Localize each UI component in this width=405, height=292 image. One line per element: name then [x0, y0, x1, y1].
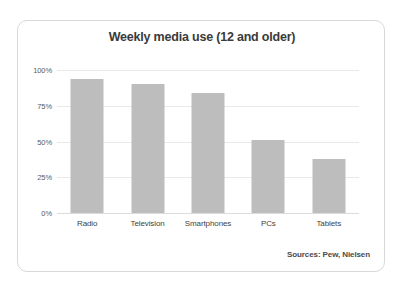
bar-radio — [71, 79, 104, 213]
bar-group: Tablets — [299, 70, 359, 213]
gridline — [57, 213, 359, 214]
bar-television — [131, 84, 164, 213]
source-note: Sources: Pew, Nielsen — [287, 250, 370, 259]
bar-group: Radio — [57, 70, 117, 213]
y-axis-tick-label: 0% — [41, 209, 52, 218]
x-axis-label-television: Television — [131, 219, 165, 228]
chart-card: Weekly media use (12 and older) 100%75%5… — [17, 20, 385, 272]
x-axis-label-radio: Radio — [77, 219, 97, 228]
bar-smartphones — [191, 93, 224, 213]
bar-group: Television — [117, 70, 177, 213]
y-axis-tick-label: 75% — [37, 101, 52, 110]
bar-group: PCs — [238, 70, 298, 213]
chart-title: Weekly media use (12 and older) — [18, 30, 386, 44]
bar-tablets — [312, 159, 345, 213]
y-axis-tick-label: 50% — [37, 137, 52, 146]
bar-pcs — [252, 140, 285, 213]
x-axis-label-tablets: Tablets — [316, 219, 341, 228]
x-axis-label-smartphones: Smartphones — [185, 219, 231, 228]
bar-group: Smartphones — [178, 70, 238, 213]
plot-area: 100%75%50%25%0% RadioTelevisionSmartphon… — [57, 70, 359, 213]
x-axis-label-pcs: PCs — [261, 219, 276, 228]
y-axis-tick-label: 100% — [33, 66, 52, 75]
y-axis-tick-label: 25% — [37, 173, 52, 182]
bars-group: RadioTelevisionSmartphonesPCsTablets — [57, 70, 359, 213]
